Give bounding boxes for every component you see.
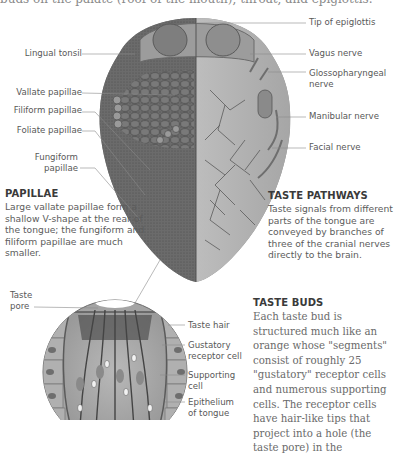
- taste-pathways-heading: TASTE PATHWAYS: [268, 190, 368, 201]
- papillae-body: Large vallate papillae form a shallow V-…: [5, 201, 157, 259]
- label-manibular-nerve: Manibular nerve: [309, 111, 379, 122]
- papillae-heading: PAPILLAE: [5, 188, 58, 199]
- taste-bud-diagram: [43, 296, 187, 420]
- label-taste-pore: Taste pore: [10, 290, 32, 311]
- label-lingual-tonsil: Lingual tonsil: [25, 48, 82, 59]
- label-taste-hair: Taste hair: [188, 320, 230, 331]
- label-vagus-nerve: Vagus nerve: [309, 48, 362, 59]
- taste-pathways-body: Taste signals from different parts of th…: [268, 203, 394, 261]
- label-fungiform-papillae: Fungiform papillae: [35, 152, 78, 173]
- taste-buds-body: Each taste bud is structured much like a…: [253, 310, 394, 456]
- label-vallate-papillae: Vallate papillae: [16, 87, 82, 98]
- label-facial-nerve: Facial nerve: [309, 142, 361, 153]
- label-gustatory-receptor-cell: Gustatory receptor cell: [188, 340, 242, 361]
- label-epithelium-of-tongue: Epithelium of tongue: [188, 397, 234, 418]
- label-filiform-papillae: Filiform papillae: [14, 105, 82, 116]
- label-foliate-papillae: Foliate papillae: [17, 125, 82, 136]
- taste-buds-heading: TASTE BUDS: [253, 297, 323, 308]
- label-tip-of-epiglottis: Tip of epiglottis: [309, 17, 375, 28]
- label-glossopharyngeal-nerve: Glossopharyngeal nerve: [309, 68, 386, 89]
- label-supporting-cell: Supporting cell: [188, 370, 235, 391]
